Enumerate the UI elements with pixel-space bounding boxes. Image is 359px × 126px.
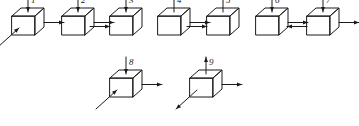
cube-right-face <box>230 8 239 35</box>
top-arrow-head-down <box>270 7 274 12</box>
right-arrow-head <box>237 83 242 87</box>
cube-label-6: 6 <box>275 0 280 5</box>
cube-group-9: 9 <box>176 57 242 109</box>
cube-front-face <box>190 78 213 97</box>
cube-right-face <box>133 70 142 97</box>
cube-group-3: 3 <box>90 0 142 35</box>
cube-right-face <box>279 8 288 35</box>
cube-label-9: 9 <box>209 57 214 67</box>
cube-right-face <box>133 8 142 35</box>
cube-front-face <box>307 16 330 35</box>
top-arrow-head-down <box>124 7 128 12</box>
left-arrow-head-in <box>202 25 207 29</box>
cube-right-face <box>181 8 190 35</box>
cube-group-7: 7 <box>287 0 359 35</box>
cube-label-7: 7 <box>326 0 331 5</box>
cube-label-3: 3 <box>128 0 134 5</box>
diagram-canvas: 123456789 <box>0 0 359 126</box>
cube-label-1: 1 <box>31 0 36 5</box>
cube-label-8: 8 <box>129 57 134 67</box>
cube-right-face <box>213 70 222 97</box>
cube-right-face <box>85 8 94 35</box>
cube-label-5: 5 <box>226 0 231 5</box>
cube-front-face <box>158 16 181 35</box>
cube-group-5: 5 <box>187 0 239 35</box>
cube-label-4: 4 <box>177 0 182 5</box>
cube-front-face <box>62 16 85 35</box>
top-arrow-head-down <box>26 7 30 12</box>
top-arrow-head-down <box>76 7 80 12</box>
cube-right-face <box>330 8 339 35</box>
left-arrow-head-in <box>105 25 110 29</box>
cube-group-6: 6 <box>256 0 308 35</box>
cube-group-8: 8 <box>96 57 162 109</box>
cube-group-2: 2 <box>62 0 114 35</box>
right-arrow-head <box>157 83 162 87</box>
cube-right-face <box>35 8 44 35</box>
cube-front-face <box>110 78 133 97</box>
right-arrow-head <box>354 21 359 25</box>
cube-front-face <box>12 16 35 35</box>
cube-group-4: 4 <box>158 0 210 35</box>
cube-front-face <box>256 16 279 35</box>
top-arrow-head-up <box>204 57 208 62</box>
top-arrow-head-down <box>124 69 128 74</box>
cube-group-1: 1 <box>0 0 64 47</box>
cube-front-face <box>207 16 230 35</box>
top-arrow-head-down <box>321 7 325 12</box>
cube-force-diagram-figure: 123456789 <box>0 0 359 126</box>
cube-label-2: 2 <box>81 0 86 5</box>
cube-front-face <box>110 16 133 35</box>
